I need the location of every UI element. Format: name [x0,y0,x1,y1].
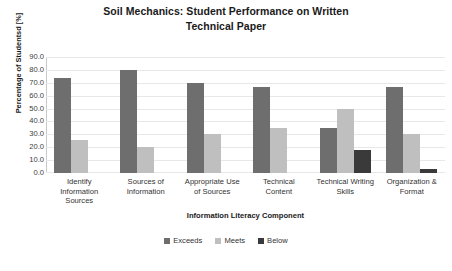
x-axis-tick-label: Appropriate Useof Sources [179,177,246,209]
x-axis-tick-label: IdentifyInformationSources [46,177,113,209]
y-axis-tick-label: 50.0 [8,104,44,114]
legend-swatch-icon [164,238,170,244]
x-axis-tick-label: Organization &Format [379,177,446,209]
y-axis-tick-label: 80.0 [8,65,44,75]
bar-group [179,57,246,173]
x-axis-tick-labels: IdentifyInformationSourcesSources ofInfo… [46,177,445,209]
y-axis-tick-labels: 90.080.070.060.050.040.030.020.010.00.0 [8,52,44,178]
bar-below[interactable] [420,169,437,173]
bar-meets[interactable] [337,109,354,173]
bar-group [46,57,113,173]
bar-exceeds[interactable] [54,78,71,173]
y-axis-tick-label: 10.0 [8,155,44,165]
chart-container: Soil Mechanics: Student Performance on W… [0,0,452,271]
legend-label: Below [267,236,288,245]
y-axis-tick-label: 90.0 [8,52,44,62]
bar-group [113,57,180,173]
y-axis-tick-label: 70.0 [8,78,44,88]
x-axis-tick-label: Technical WritingSkills [312,177,379,209]
chart-title-line-2: Technical Paper [0,19,452,34]
y-axis-tick-label: 40.0 [8,116,44,126]
bar-exceeds[interactable] [386,87,403,173]
bar-groups [46,57,445,173]
chart-title: Soil Mechanics: Student Performance on W… [0,4,452,34]
bar-meets[interactable] [270,128,287,173]
x-axis-title: Information Literacy Component [46,211,445,220]
y-axis-tick-label: 20.0 [8,142,44,152]
legend-swatch-icon [258,238,264,244]
bar-group [312,57,379,173]
bar-group [246,57,313,173]
bar-below[interactable] [354,150,371,173]
legend-item-below[interactable]: Below [258,236,288,245]
bar-exceeds[interactable] [120,70,137,173]
bar-exceeds[interactable] [320,128,337,173]
y-axis-tick-label: 30.0 [8,129,44,139]
legend-item-meets[interactable]: Meets [215,236,245,245]
legend-label: Exceeds [173,236,202,245]
bar-meets[interactable] [204,134,221,173]
legend-label: Meets [224,236,245,245]
bar-exceeds[interactable] [253,87,270,173]
bar-exceeds[interactable] [187,83,204,173]
y-axis-tick-label: 0.0 [8,168,44,178]
chart-title-line-1: Soil Mechanics: Student Performance on W… [0,4,452,19]
y-axis-tick-label: 60.0 [8,91,44,101]
legend-swatch-icon [215,238,221,244]
bar-meets[interactable] [71,140,88,174]
x-axis-tick-label: TechnicalContent [246,177,313,209]
legend-item-exceeds[interactable]: Exceeds [164,236,202,245]
bar-meets[interactable] [137,147,154,173]
bar-group [379,57,446,173]
bar-meets[interactable] [403,134,420,173]
chart-legend: ExceedsMeetsBelow [0,236,452,245]
x-axis-tick-label: Sources ofInformation [113,177,180,209]
